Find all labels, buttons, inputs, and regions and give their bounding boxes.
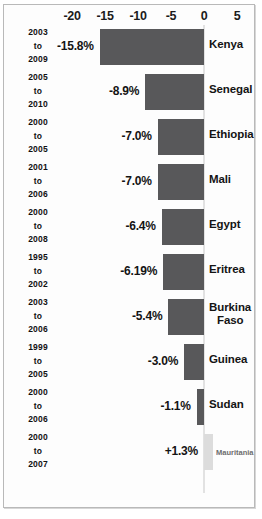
row-period-label: 2003to2006 bbox=[12, 296, 64, 337]
country-label-line: Burkina bbox=[209, 301, 251, 314]
country-label: Egypt bbox=[209, 218, 240, 231]
chart-frame: -20-15-10-505 2003to2009-15.8%Kenya2005t… bbox=[3, 4, 255, 508]
bar-value-label: -6.19% bbox=[120, 264, 157, 278]
period-line: to bbox=[12, 85, 64, 99]
period-line: 2005 bbox=[12, 143, 64, 157]
period-line: to bbox=[12, 130, 64, 144]
bar-ethiopia bbox=[158, 119, 204, 155]
country-label: Mauritania bbox=[216, 446, 254, 459]
country-label-line: Ethiopia bbox=[209, 128, 254, 141]
bar-value-label: -8.9% bbox=[109, 84, 139, 98]
country-label: Eritrea bbox=[209, 263, 245, 276]
bar-value-label: -1.1% bbox=[160, 399, 190, 413]
period-line: 1995 bbox=[12, 251, 64, 265]
x-axis-tick-label: -5 bbox=[166, 9, 177, 23]
chart-plot-area: 2003to2009-15.8%Kenya2005to2010-8.9%Sene… bbox=[4, 25, 254, 475]
country-label-line: Guinea bbox=[209, 353, 247, 366]
period-line: 2002 bbox=[12, 278, 64, 292]
period-line: 2007 bbox=[12, 458, 64, 472]
chart-row: 2000to2006-1.1%Sudan bbox=[4, 385, 254, 430]
country-label-line: Mali bbox=[209, 173, 231, 186]
period-line: 2003 bbox=[12, 296, 64, 310]
period-line: 2000 bbox=[12, 116, 64, 130]
x-axis-tick-label: -10 bbox=[129, 9, 146, 23]
chart-row: 2003to2009-15.8%Kenya bbox=[4, 25, 254, 70]
chart-row: 1995to2002-6.19%Eritrea bbox=[4, 250, 254, 295]
bar-value-label: -7.0% bbox=[121, 129, 151, 143]
country-label-line: Senegal bbox=[209, 83, 252, 96]
country-label: Ethiopia bbox=[209, 128, 254, 141]
bar-senegal bbox=[145, 74, 204, 110]
row-period-label: 2005to2010 bbox=[12, 71, 64, 112]
row-period-label: 2000to2008 bbox=[12, 206, 64, 247]
row-period-label: 1999to2005 bbox=[12, 341, 64, 382]
chart-row: 2000to2008-6.4%Egypt bbox=[4, 205, 254, 250]
country-label-line: Egypt bbox=[209, 218, 240, 231]
country-label-line: Eritrea bbox=[209, 263, 245, 276]
period-line: to bbox=[12, 445, 64, 459]
chart-row: 2003to2006-5.4%BurkinaFaso bbox=[4, 295, 254, 340]
period-line: 2006 bbox=[12, 413, 64, 427]
period-line: 1999 bbox=[12, 341, 64, 355]
period-line: 2009 bbox=[12, 53, 64, 67]
bar-value-label: -5.4% bbox=[132, 309, 162, 323]
chart-row: 1999to2005-3.0%Guinea bbox=[4, 340, 254, 385]
bar-value-label: -7.0% bbox=[121, 174, 151, 188]
period-line: 2006 bbox=[12, 188, 64, 202]
x-axis-tick-label: 0 bbox=[201, 9, 208, 23]
period-line: 2005 bbox=[12, 368, 64, 382]
period-line: to bbox=[12, 220, 64, 234]
row-period-label: 2000to2005 bbox=[12, 116, 64, 157]
bar-value-label: +1.3% bbox=[165, 444, 198, 458]
row-period-label: 1995to2002 bbox=[12, 251, 64, 292]
x-axis-tick-label: 5 bbox=[234, 9, 241, 23]
bar-value-label: -15.8% bbox=[57, 39, 94, 53]
period-line: 2000 bbox=[12, 431, 64, 445]
country-label: Kenya bbox=[209, 38, 243, 51]
bar-guinea bbox=[184, 344, 204, 380]
row-period-label: 2000to2006 bbox=[12, 386, 64, 427]
bar-burkina-faso bbox=[168, 299, 204, 335]
country-label: Senegal bbox=[209, 83, 252, 96]
period-line: to bbox=[12, 175, 64, 189]
country-label: Sudan bbox=[209, 398, 244, 411]
period-line: 2003 bbox=[12, 26, 64, 40]
period-line: 2000 bbox=[12, 386, 64, 400]
period-line: to bbox=[12, 265, 64, 279]
period-line: 2001 bbox=[12, 161, 64, 175]
period-line: 2010 bbox=[12, 98, 64, 112]
x-axis-tick-label: -15 bbox=[96, 9, 113, 23]
country-label: Mali bbox=[209, 173, 231, 186]
row-period-label: 2000to2007 bbox=[12, 431, 64, 472]
country-label-line: Faso bbox=[209, 314, 251, 327]
bar-sudan bbox=[197, 389, 204, 425]
period-line: 2006 bbox=[12, 323, 64, 337]
bar-value-label: -3.0% bbox=[148, 354, 178, 368]
bar-kenya bbox=[100, 29, 204, 65]
chart-row: 2000to2005-7.0%Ethiopia bbox=[4, 115, 254, 160]
country-label: Guinea bbox=[209, 353, 247, 366]
bar-egypt bbox=[162, 209, 204, 245]
period-line: to bbox=[12, 355, 64, 369]
country-label-line: Kenya bbox=[209, 38, 243, 51]
period-line: 2005 bbox=[12, 71, 64, 85]
chart-x-axis: -20-15-10-505 bbox=[4, 5, 254, 27]
chart-row: 2000to2007+1.3%Mauritania bbox=[4, 430, 254, 475]
row-period-label: 2001to2006 bbox=[12, 161, 64, 202]
country-label-line: Mauritania bbox=[216, 446, 254, 459]
period-line: 2008 bbox=[12, 233, 64, 247]
chart-row: 2001to2006-7.0%Mali bbox=[4, 160, 254, 205]
bar-mauritania bbox=[204, 434, 213, 470]
bar-eritrea bbox=[163, 254, 204, 290]
period-line: 2000 bbox=[12, 206, 64, 220]
bar-mali bbox=[158, 164, 204, 200]
country-label-line: Sudan bbox=[209, 398, 244, 411]
chart-row: 2005to2010-8.9%Senegal bbox=[4, 70, 254, 115]
x-axis-tick-label: -20 bbox=[63, 9, 80, 23]
period-line: to bbox=[12, 310, 64, 324]
bar-value-label: -6.4% bbox=[125, 219, 155, 233]
period-line: to bbox=[12, 400, 64, 414]
country-label: BurkinaFaso bbox=[209, 301, 251, 327]
